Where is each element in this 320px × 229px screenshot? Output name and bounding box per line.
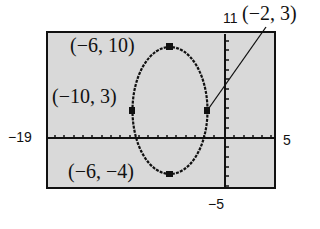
point-left: [129, 107, 135, 114]
label-ymax: 11: [223, 10, 238, 26]
ellipse-curve: [133, 47, 208, 174]
label-point-left: (−10, 3): [52, 85, 117, 108]
label-xmin: −19: [8, 129, 32, 145]
plot-area: [0, 0, 320, 229]
label-point-top: (−6, 10): [70, 34, 135, 57]
leader-line: [209, 27, 266, 108]
point-top: [166, 43, 173, 50]
label-point-bottom: (−6, −4): [68, 160, 134, 183]
label-xmax: 5: [283, 132, 291, 148]
point-bottom: [166, 171, 173, 177]
label-ymin: −5: [208, 196, 224, 212]
label-point-right: (−2, 3): [242, 2, 297, 25]
